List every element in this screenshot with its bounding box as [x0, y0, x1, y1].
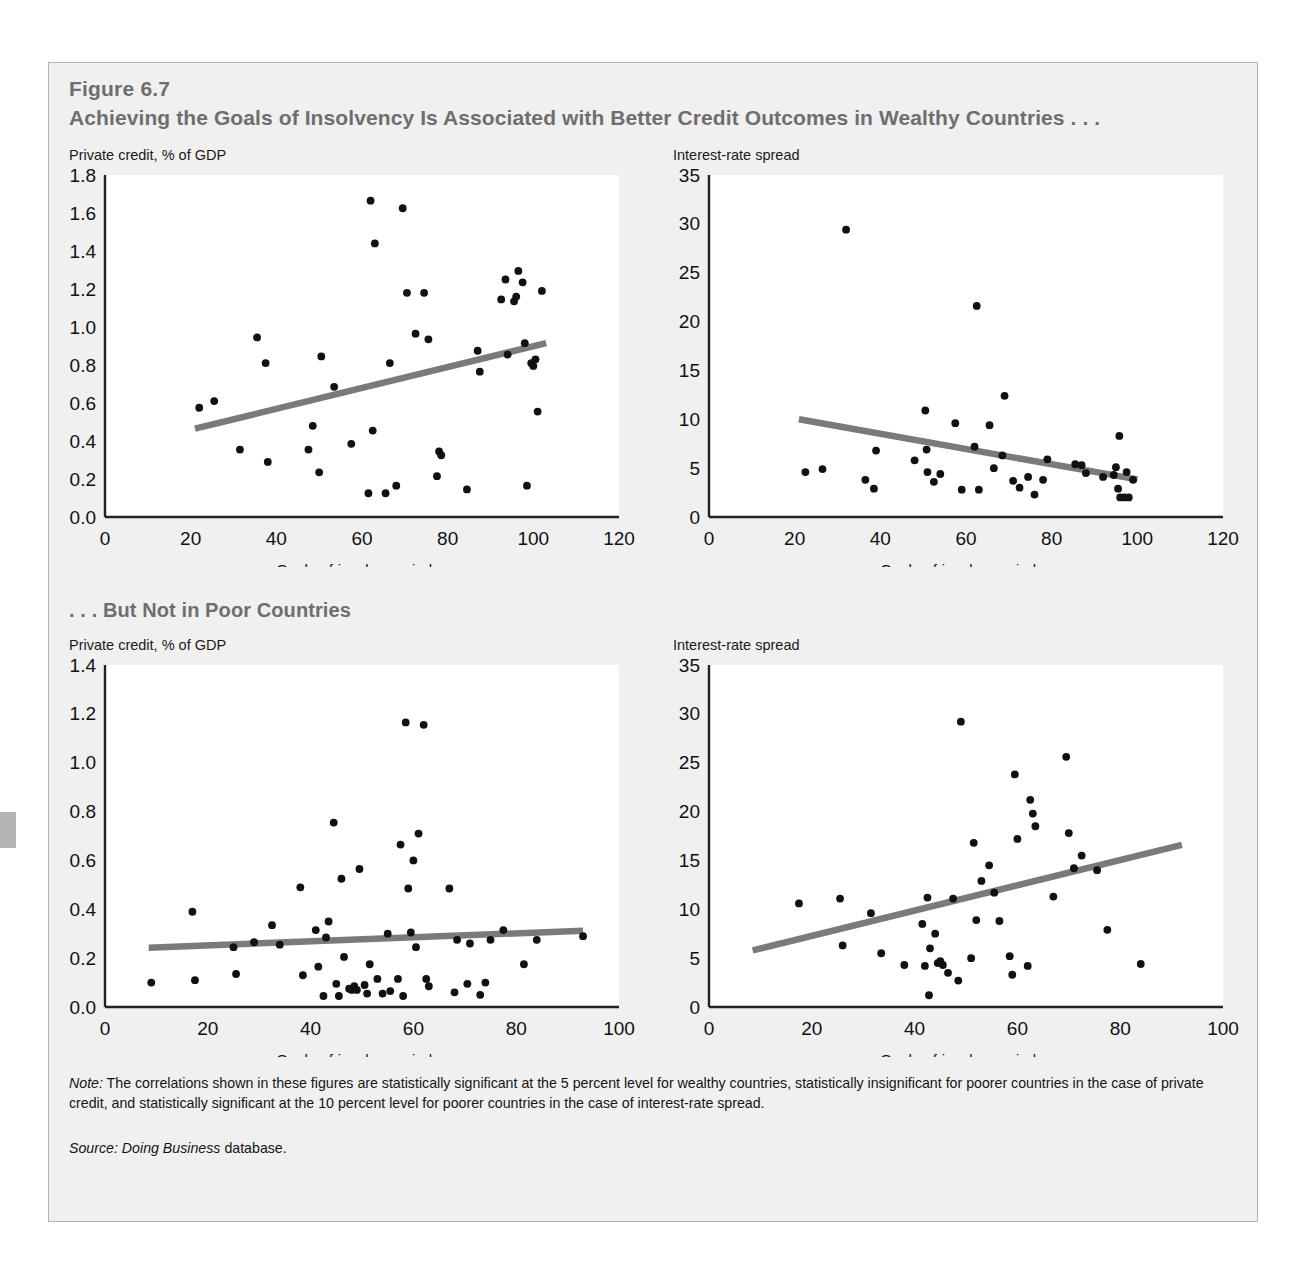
scatter-plot-svg: 05101520253035020406080100Goals-of-insol…	[653, 657, 1253, 1057]
chart-axis-note-poor-private-credit: Private credit, % of GDP	[69, 637, 226, 653]
chart-wealthy-interest-rate-spread: 05101520253035020406080100120Goals-of-in…	[653, 167, 1253, 567]
svg-text:60: 60	[351, 528, 372, 549]
svg-text:20: 20	[679, 311, 700, 332]
figure-page: Figure 6.7 Achieving the Goals of Insolv…	[0, 0, 1304, 1284]
svg-text:0.0: 0.0	[70, 997, 96, 1018]
svg-text:10: 10	[679, 409, 700, 430]
svg-text:100: 100	[1207, 1018, 1239, 1039]
svg-text:30: 30	[679, 213, 700, 234]
page-edge-marker	[0, 812, 16, 848]
chart-axis-note-wealthy-spread: Interest-rate spread	[673, 147, 800, 163]
svg-text:5: 5	[689, 458, 700, 479]
svg-text:1.0: 1.0	[70, 752, 96, 773]
svg-text:35: 35	[679, 657, 700, 676]
svg-text:Goals-of-insolvency index: Goals-of-insolvency index	[880, 1051, 1052, 1057]
source-label: Source:	[69, 1140, 118, 1156]
svg-text:20: 20	[679, 801, 700, 822]
svg-text:80: 80	[437, 528, 458, 549]
svg-text:40: 40	[904, 1018, 925, 1039]
svg-text:1.2: 1.2	[70, 703, 96, 724]
svg-text:0: 0	[689, 507, 700, 528]
svg-text:80: 80	[1041, 528, 1062, 549]
svg-text:15: 15	[679, 360, 700, 381]
svg-text:Goals-of-insolvency index: Goals-of-insolvency index	[880, 561, 1052, 567]
svg-text:20: 20	[784, 528, 805, 549]
svg-text:1.4: 1.4	[70, 657, 97, 676]
svg-text:1.0: 1.0	[70, 317, 96, 338]
svg-text:Goals-of-insolvency index: Goals-of-insolvency index	[276, 1051, 448, 1057]
svg-text:80: 80	[1110, 1018, 1131, 1039]
svg-text:1.6: 1.6	[70, 203, 96, 224]
svg-text:1.8: 1.8	[70, 167, 96, 186]
svg-text:100: 100	[517, 528, 549, 549]
scatter-plot-svg: 0.00.20.40.60.81.01.21.4020406080100Goal…	[49, 657, 649, 1057]
svg-text:20: 20	[180, 528, 201, 549]
svg-text:80: 80	[506, 1018, 527, 1039]
chart-poor-interest-rate-spread: 05101520253035020406080100Goals-of-insol…	[653, 657, 1253, 1057]
svg-text:40: 40	[870, 528, 891, 549]
svg-text:60: 60	[955, 528, 976, 549]
svg-text:0: 0	[100, 1018, 111, 1039]
svg-text:0.4: 0.4	[70, 899, 97, 920]
chart-axis-note-wealthy-private-credit: Private credit, % of GDP	[69, 147, 226, 163]
svg-text:0.4: 0.4	[70, 431, 97, 452]
svg-text:25: 25	[679, 752, 700, 773]
svg-text:0: 0	[689, 997, 700, 1018]
chart-axis-note-poor-spread: Interest-rate spread	[673, 637, 800, 653]
svg-text:0.2: 0.2	[70, 469, 96, 490]
svg-text:20: 20	[801, 1018, 822, 1039]
scatter-plot-svg: 0.00.20.40.60.81.01.21.41.61.80204060801…	[49, 167, 649, 567]
svg-text:0.2: 0.2	[70, 948, 96, 969]
chart-wealthy-private-credit: 0.00.20.40.60.81.01.21.41.61.80204060801…	[49, 167, 649, 567]
figure-number: Figure 6.7	[69, 77, 170, 101]
svg-text:60: 60	[403, 1018, 424, 1039]
note-text: The correlations shown in these figures …	[69, 1075, 1204, 1111]
svg-text:40: 40	[300, 1018, 321, 1039]
svg-text:0.0: 0.0	[70, 507, 96, 528]
svg-text:30: 30	[679, 703, 700, 724]
svg-text:120: 120	[603, 528, 635, 549]
figure-note: Note: The correlations shown in these fi…	[69, 1073, 1237, 1113]
source-italic-title: Doing Business	[118, 1140, 221, 1156]
svg-text:100: 100	[603, 1018, 635, 1039]
svg-text:0.8: 0.8	[70, 355, 96, 376]
figure-source: Source: Doing Business database.	[69, 1140, 287, 1156]
figure-panel: Figure 6.7 Achieving the Goals of Insolv…	[48, 62, 1258, 1222]
source-text: database.	[220, 1140, 286, 1156]
svg-text:10: 10	[679, 899, 700, 920]
svg-text:20: 20	[197, 1018, 218, 1039]
svg-text:100: 100	[1121, 528, 1153, 549]
note-label: Note:	[69, 1075, 103, 1091]
svg-text:40: 40	[266, 528, 287, 549]
svg-text:60: 60	[1007, 1018, 1028, 1039]
svg-text:0.8: 0.8	[70, 801, 96, 822]
section-title-poor-countries: . . . But Not in Poor Countries	[69, 599, 351, 622]
svg-text:15: 15	[679, 850, 700, 871]
svg-text:Goals-of-insolvency index: Goals-of-insolvency index	[276, 561, 448, 567]
svg-text:0.6: 0.6	[70, 850, 96, 871]
svg-text:120: 120	[1207, 528, 1239, 549]
svg-text:0: 0	[704, 1018, 715, 1039]
figure-title: Achieving the Goals of Insolvency Is Ass…	[69, 106, 1100, 130]
chart-poor-private-credit: 0.00.20.40.60.81.01.21.4020406080100Goal…	[49, 657, 649, 1057]
svg-text:25: 25	[679, 262, 700, 283]
svg-text:1.4: 1.4	[70, 241, 97, 262]
svg-text:5: 5	[689, 948, 700, 969]
svg-text:35: 35	[679, 167, 700, 186]
svg-text:0: 0	[100, 528, 111, 549]
svg-text:0: 0	[704, 528, 715, 549]
svg-text:1.2: 1.2	[70, 279, 96, 300]
svg-text:0.6: 0.6	[70, 393, 96, 414]
scatter-plot-svg: 05101520253035020406080100120Goals-of-in…	[653, 167, 1253, 567]
